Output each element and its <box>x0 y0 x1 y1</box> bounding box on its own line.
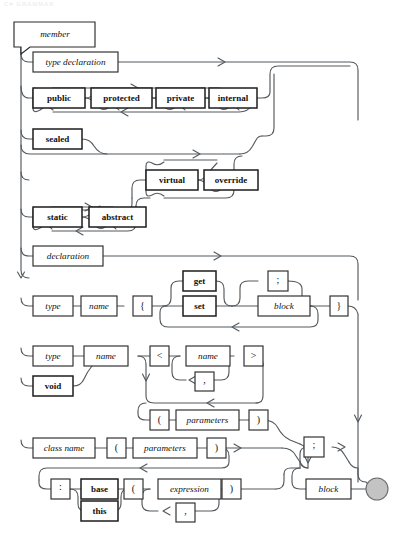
node-colon-label: : <box>59 481 62 492</box>
node-comma-2-label: , <box>184 505 187 516</box>
node-angle-open[interactable]: < <box>150 346 169 366</box>
node-this-label: this <box>92 506 107 516</box>
node-name-2-label: name <box>96 351 116 361</box>
node-override-label: override <box>215 175 247 185</box>
node-parameters-2-label: parameters <box>143 443 186 453</box>
node-class-name[interactable]: class name <box>33 438 95 458</box>
node-parameters[interactable]: parameters <box>176 410 239 430</box>
railroad-diagram-member: C# GRAMMAR <box>0 0 404 551</box>
node-sealed[interactable]: sealed <box>33 129 82 149</box>
node-block[interactable]: block <box>258 296 310 316</box>
node-parameters-2[interactable]: parameters <box>133 438 197 458</box>
node-protected[interactable]: protected <box>91 88 152 108</box>
node-angle-close[interactable]: > <box>244 346 263 366</box>
node-set[interactable]: set <box>183 296 216 316</box>
node-void[interactable]: void <box>33 376 73 396</box>
node-brace-close-label: } <box>337 300 342 311</box>
node-name[interactable]: name <box>81 296 117 316</box>
node-virtual-label: virtual <box>159 175 185 185</box>
node-override[interactable]: override <box>204 170 258 190</box>
node-set-label: set <box>194 301 205 311</box>
start-terminal-member: member <box>14 22 95 54</box>
node-paren-close-3-label: ) <box>230 483 233 495</box>
end-terminal <box>366 478 388 500</box>
node-type-2-label: type <box>45 351 60 361</box>
node-paren-close-label: ) <box>257 414 260 426</box>
node-paren-open-3[interactable]: ( <box>124 479 143 499</box>
node-parameters-label: parameters <box>186 415 229 425</box>
node-protected-label: protected <box>103 93 139 103</box>
node-comma-label: , <box>203 374 206 385</box>
node-angle-open-label: < <box>157 350 163 361</box>
node-semicolon[interactable]: ; <box>268 271 288 291</box>
node-private[interactable]: private <box>156 88 205 108</box>
node-base-label: base <box>91 484 108 494</box>
node-block-label: block <box>274 301 295 311</box>
node-static-label: static <box>47 212 68 222</box>
node-brace-close[interactable]: } <box>330 296 348 316</box>
node-name-label: name <box>89 301 109 311</box>
node-name-2[interactable]: name <box>84 346 128 366</box>
node-name-3-label: name <box>198 351 218 361</box>
node-paren-open[interactable]: ( <box>150 410 169 430</box>
node-type-declaration-label: type declaration <box>46 57 106 67</box>
node-expression[interactable]: expression <box>158 479 221 499</box>
node-paren-close-2[interactable]: ) <box>207 438 226 458</box>
node-block-2-label: block <box>319 484 340 494</box>
node-public-label: public <box>47 93 71 103</box>
node-comma[interactable]: , <box>195 372 214 391</box>
node-comma-2[interactable]: , <box>176 503 195 522</box>
node-name-3[interactable]: name <box>186 346 230 366</box>
node-internal[interactable]: internal <box>209 88 257 108</box>
node-get-label: get <box>194 276 206 286</box>
node-class-name-label: class name <box>44 443 85 453</box>
node-paren-close-2-label: ) <box>215 442 218 454</box>
start-label: member <box>40 29 70 39</box>
node-base[interactable]: base <box>81 479 118 499</box>
node-virtual[interactable]: virtual <box>146 170 198 190</box>
node-semicolon-label: ; <box>277 274 280 285</box>
node-static[interactable]: static <box>33 207 82 227</box>
node-void-label: void <box>45 381 62 391</box>
node-abstract-label: abstract <box>102 212 134 222</box>
node-paren-close[interactable]: ) <box>249 410 268 430</box>
node-type-2[interactable]: type <box>33 346 73 366</box>
node-brace-open-label: { <box>140 300 145 311</box>
node-sealed-label: sealed <box>46 134 70 144</box>
node-abstract[interactable]: abstract <box>89 207 146 227</box>
node-type-declaration[interactable]: type declaration <box>33 52 118 72</box>
node-internal-label: internal <box>218 93 249 103</box>
node-brace-open[interactable]: { <box>133 296 152 316</box>
node-get[interactable]: get <box>183 271 216 291</box>
node-type-label: type <box>45 301 60 311</box>
node-private-label: private <box>167 93 195 103</box>
node-this[interactable]: this <box>81 501 118 521</box>
node-paren-close-3[interactable]: ) <box>222 479 241 499</box>
node-declaration-label: declaration <box>47 251 90 261</box>
ghost-header-text: C# GRAMMAR <box>4 1 55 7</box>
node-type[interactable]: type <box>33 296 73 316</box>
node-paren-open-2[interactable]: ( <box>107 438 126 458</box>
node-semicolon-2[interactable]: ; <box>304 437 324 457</box>
node-declaration[interactable]: declaration <box>33 246 103 266</box>
node-angle-close-label: > <box>251 350 257 361</box>
node-semicolon-2-label: ; <box>313 439 316 450</box>
node-expression-label: expression <box>170 484 209 494</box>
node-public[interactable]: public <box>33 88 85 108</box>
node-block-2[interactable]: block <box>306 479 351 499</box>
node-colon[interactable]: : <box>51 479 70 499</box>
